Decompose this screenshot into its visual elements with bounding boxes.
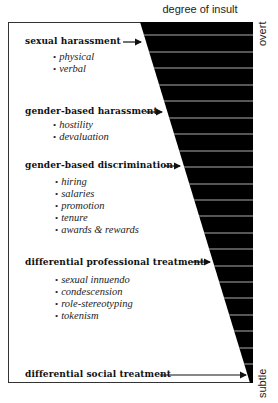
category-item: •salaries bbox=[55, 188, 94, 199]
category-item: •devaluation bbox=[53, 131, 109, 142]
wedge-graphic bbox=[0, 0, 278, 403]
category-item: •sexual innuendo bbox=[55, 274, 130, 285]
category-item: •physical bbox=[53, 51, 94, 62]
category-heading: differential professional treatment bbox=[25, 257, 204, 267]
insult-wedge-diagram: degree of insult bbox=[0, 0, 278, 403]
category-heading: gender-based discrimination bbox=[25, 160, 173, 170]
category-item: •verbal bbox=[53, 63, 86, 74]
category-item: •tokenism bbox=[55, 310, 98, 321]
overt-label: overt bbox=[256, 22, 268, 46]
category-heading: differential social treatment bbox=[25, 369, 171, 379]
category-item: •condescension bbox=[55, 286, 122, 297]
category-heading: gender-based harassment bbox=[25, 106, 158, 116]
category-item: •hiring bbox=[55, 176, 87, 187]
category-item: •role-stereotyping bbox=[55, 298, 133, 309]
category-item: •tenure bbox=[55, 212, 88, 223]
subtle-label: subtle bbox=[256, 369, 268, 398]
category-item: •awards & rewards bbox=[55, 224, 139, 235]
insult-wedge bbox=[140, 22, 253, 383]
category-item: •promotion bbox=[55, 200, 105, 211]
category-item: •hostility bbox=[53, 119, 93, 130]
category-heading: sexual harassment bbox=[25, 36, 121, 46]
